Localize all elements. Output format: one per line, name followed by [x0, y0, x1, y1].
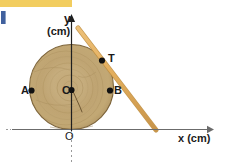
point-marker-A [28, 87, 34, 93]
origin-label: O [65, 131, 74, 142]
physics-diagram-figure: y (cm) x (cm) O A B C T [0, 0, 227, 165]
y-axis-label: y [64, 13, 71, 25]
y-axis-unit-label: (cm) [47, 26, 70, 37]
point-label-T: T [108, 53, 115, 64]
point-marker-T [99, 57, 105, 63]
point-label-B: B [114, 85, 122, 96]
point-label-C: C [62, 85, 70, 96]
point-marker-B [107, 87, 113, 93]
point-label-A: A [21, 85, 29, 96]
x-axis-label: x (cm) [178, 133, 210, 144]
